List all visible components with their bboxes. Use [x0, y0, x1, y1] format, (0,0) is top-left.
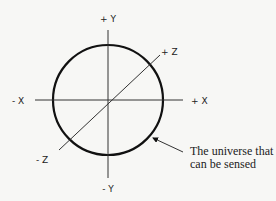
- annotation-line-1: The universe that: [190, 144, 274, 158]
- label-plus-z: + Z: [161, 47, 178, 57]
- annotation-line-2: can be sensed: [190, 157, 256, 171]
- label-plus-x: + X: [191, 96, 208, 106]
- label-minus-x: - X: [12, 96, 24, 106]
- coordinate-diagram: + Y - Y - X + X + Z - Z The universe tha…: [0, 0, 276, 201]
- annotation-arrow: [153, 138, 183, 152]
- label-minus-y: - Y: [102, 184, 114, 194]
- label-plus-y: + Y: [100, 14, 116, 24]
- label-minus-z: - Z: [36, 155, 48, 165]
- z-axis: [59, 55, 160, 150]
